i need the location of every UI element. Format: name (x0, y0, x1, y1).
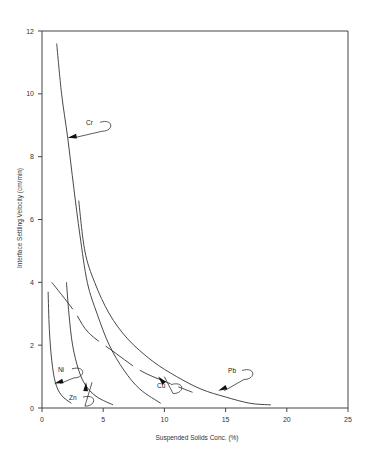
plot-frame (42, 31, 348, 408)
x-tick-label: 5 (101, 416, 105, 423)
curve-cu (52, 282, 193, 392)
data-curves (48, 44, 271, 405)
series-label-pb: Pb (228, 367, 236, 374)
series-label-zn: Zn (69, 394, 77, 401)
y-tick-label: 0 (30, 405, 34, 412)
curve-cr (57, 44, 161, 404)
x-tick-label: 25 (344, 416, 352, 423)
y-tick-label: 12 (26, 28, 34, 35)
pointer-arrow-cu (164, 377, 182, 394)
series-label-ni: Ni (58, 366, 64, 373)
arrowhead-icon (54, 379, 63, 384)
series-label-cr: Cr (86, 119, 94, 126)
curve-ni (48, 292, 71, 404)
arrowhead-icon (68, 134, 77, 139)
x-tick-label: 0 (40, 416, 44, 423)
x-axis-label: Suspended Solids Conc. (%) (155, 434, 238, 442)
x-tick-label: 15 (222, 416, 230, 423)
axis-ticks: 0510152025024681012 (26, 28, 352, 424)
y-axis-label: Interface Settling Velocity (cm/min) (16, 168, 24, 268)
curve-zn (66, 282, 113, 405)
y-tick-label: 4 (30, 279, 34, 286)
curve-pb (79, 201, 271, 405)
y-tick-label: 6 (30, 216, 34, 223)
pointer-arrow-zn (83, 382, 94, 406)
x-tick-label: 20 (283, 416, 291, 423)
y-tick-label: 2 (30, 342, 34, 349)
axes-frame (42, 31, 348, 408)
x-tick-label: 10 (161, 416, 169, 423)
y-tick-label: 8 (30, 153, 34, 160)
arrowhead-icon (83, 382, 88, 391)
chart: 0510152025024681012 CrPbCuZnNi Suspended… (0, 0, 369, 456)
y-tick-label: 10 (26, 90, 34, 97)
